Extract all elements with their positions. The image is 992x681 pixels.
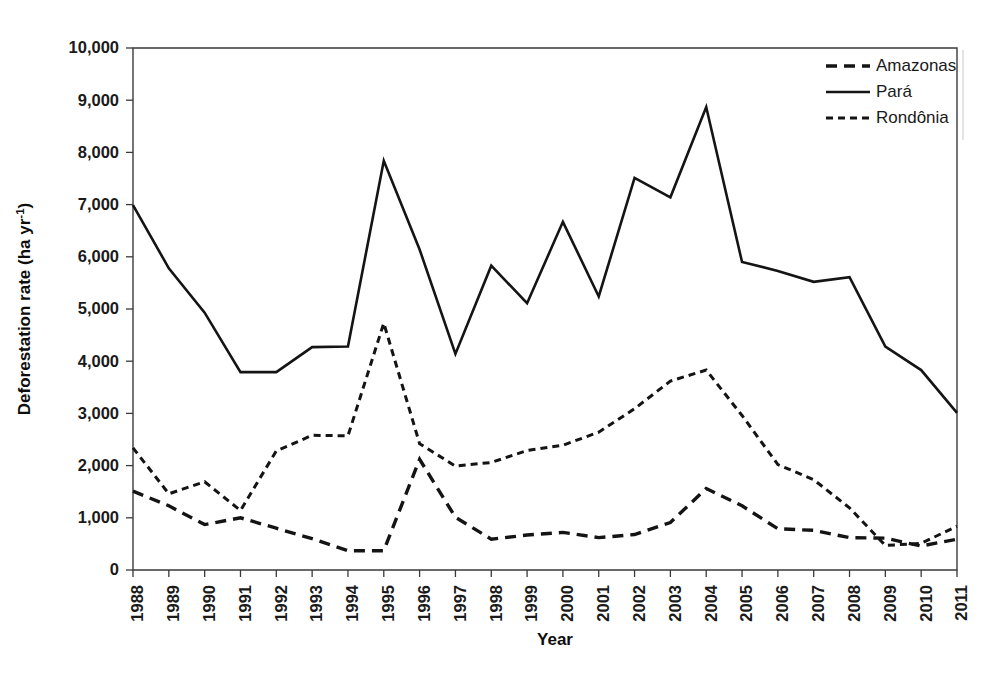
x-tick-label: 1994 — [343, 584, 361, 622]
data-series-group — [133, 107, 957, 551]
x-tick-label: 1992 — [272, 585, 290, 622]
y-tick-label: 1,000 — [78, 508, 119, 526]
y-tick-label: 5,000 — [78, 299, 119, 317]
x-tick-label: 2010 — [917, 585, 935, 622]
x-tick-label: 2000 — [558, 585, 576, 622]
x-tick-label: 2004 — [702, 584, 720, 622]
y-tick-label: 9,000 — [78, 91, 119, 109]
y-axis-title: Deforestation rate (ha yr-1) — [14, 203, 34, 415]
y-tick-label: 4,000 — [78, 352, 119, 370]
y-tick-label: 8,000 — [78, 143, 119, 161]
y-tick-label: 2,000 — [78, 456, 119, 474]
x-tick-label: 2005 — [737, 585, 755, 622]
x-tick-label: 2002 — [630, 585, 648, 622]
plot-axes — [133, 48, 957, 570]
x-tick-label: 1999 — [522, 585, 540, 622]
y-axis-title-text: Deforestation rate (ha yr-1) — [14, 203, 34, 415]
y-tick-label: 10,000 — [69, 38, 119, 56]
chart-legend: AmazonasParáRondônia — [826, 50, 963, 140]
series-line-rondnia — [133, 323, 957, 545]
x-tick-label: 1996 — [415, 585, 433, 622]
x-tick-label: 1988 — [128, 585, 146, 622]
x-tick-label: 1991 — [236, 585, 254, 622]
chart-figure: Deforestation rate (ha yr-1) 01,0002,000… — [0, 0, 992, 681]
y-tick-label: 0 — [110, 560, 119, 578]
x-tick-label: 1995 — [379, 585, 397, 622]
x-tick-label: 2011 — [952, 585, 970, 621]
legend-label-rondnia: Rondônia — [876, 108, 949, 127]
series-line-par — [133, 107, 957, 413]
x-axis-title: Year — [537, 630, 573, 649]
legend-label-par: Pará — [876, 82, 912, 101]
x-tick-label: 2008 — [845, 585, 863, 622]
y-tick-label: 3,000 — [78, 404, 119, 422]
x-tick-label: 1990 — [200, 585, 218, 622]
x-tick-label: 2001 — [594, 585, 612, 622]
x-tick-label: 1997 — [451, 585, 469, 622]
x-axis-ticks: 1988198919901991199219931994199519961997… — [128, 570, 970, 622]
plot-frame — [133, 48, 957, 570]
x-tick-label: 1998 — [487, 585, 505, 622]
x-tick-label: 2006 — [773, 585, 791, 622]
y-tick-label: 6,000 — [78, 247, 119, 265]
legend-label-amazonas: Amazonas — [876, 56, 956, 75]
y-tick-label: 7,000 — [78, 195, 119, 213]
deforestation-line-chart: Deforestation rate (ha yr-1) 01,0002,000… — [0, 0, 992, 681]
y-axis-ticks: 01,0002,0003,0004,0005,0006,0007,0008,00… — [69, 38, 133, 578]
x-tick-label: 1989 — [164, 585, 182, 622]
x-tick-label: 2009 — [881, 585, 899, 622]
series-line-amazonas — [133, 459, 957, 550]
x-tick-label: 1993 — [307, 585, 325, 622]
x-tick-label: 2003 — [666, 585, 684, 622]
x-axis-title-text: Year — [537, 630, 573, 649]
x-tick-label: 2007 — [809, 585, 827, 622]
